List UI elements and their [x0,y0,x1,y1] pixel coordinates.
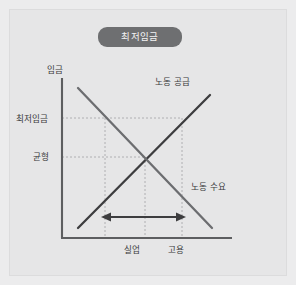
employment-x-label: 고용 [168,243,184,255]
equilibrium-level-label: 균형 [33,150,49,162]
y-axis-title: 임금 [47,63,63,75]
labor-supply-curve-label: 노동 공급 [155,75,190,87]
labor-supply-curve [78,95,210,228]
labor-demand-curve-label: 노동 수요 [191,180,226,192]
unemployment-gap-arrow [101,213,186,222]
arrow-head-left [101,213,111,222]
unemployment-x-label: 실업 [124,243,140,255]
minimum-wage-diagram: 최저임금 임금 최저임금 균형 노동 공급 노동 수요 실업 고용 [0,0,296,285]
minimum-wage-level-label: 최저임금 [16,112,48,124]
chart-title-badge: 최저임금 [98,27,182,47]
arrow-head-right [176,213,186,222]
